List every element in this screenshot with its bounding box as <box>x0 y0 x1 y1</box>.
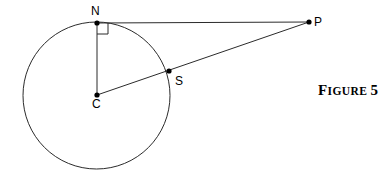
point-marker-n <box>94 20 99 25</box>
point-label-p: P <box>314 16 322 28</box>
segment-secant-c-p <box>97 22 309 95</box>
point-marker-s <box>166 68 171 73</box>
figure-caption-word: IGURE <box>328 85 368 97</box>
point-label-c: C <box>92 98 101 110</box>
point-label-n: N <box>91 5 100 17</box>
point-marker-p <box>306 19 311 24</box>
point-label-s: S <box>175 75 183 87</box>
figure-caption-number: 5 <box>371 82 379 98</box>
figure-caption: FIGURE 5 <box>318 82 378 98</box>
figure-container: N P C S FIGURE 5 <box>0 0 391 179</box>
segment-tangent-n-p <box>97 22 309 23</box>
figure-caption-lead: F <box>318 82 328 98</box>
